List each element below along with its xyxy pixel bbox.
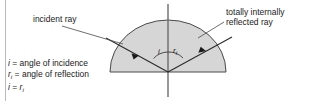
legend-equality-right-subscript: i — [22, 86, 23, 93]
totally-internally-reflected-ray-label: totally internally reflected ray — [226, 7, 285, 27]
legend-line-reflection: ri = angle of reflection — [8, 69, 89, 83]
tir-label-line1: totally internally — [226, 7, 285, 17]
angle-of-incidence-symbol: i — [158, 47, 160, 56]
angle-of-reflection-symbol: ri — [173, 46, 177, 56]
legend-text-incidence: = angle of incidence — [10, 58, 88, 68]
legend-text-reflection: = angle of reflection — [12, 69, 89, 79]
legend-key: i = angle of incidence ri = angle of ref… — [8, 58, 89, 96]
legend-line-equality: i = ri — [8, 82, 89, 96]
legend-line-incidence: i = angle of incidence — [8, 58, 89, 69]
tir-label-line2: reflected ray — [226, 17, 285, 27]
incident-ray-leader-line — [62, 26, 123, 44]
incident-ray-label: incident ray — [33, 14, 76, 24]
angle-of-reflection-symbol-subscript: i — [176, 49, 177, 56]
legend-equality-operator: = — [10, 82, 20, 92]
diagram-canvas: incident ray totally internally reflecte… — [0, 0, 312, 101]
